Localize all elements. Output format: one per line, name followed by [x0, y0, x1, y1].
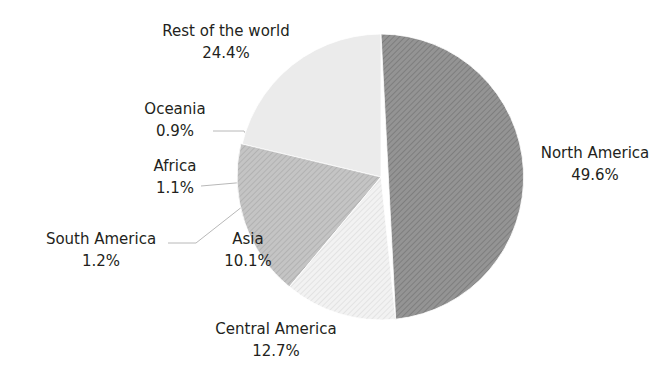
- pie-chart-figure: Rest of the world 24.4% Oceania 0.9% Afr…: [0, 0, 666, 387]
- pie-label-north-america-value: 49.6%: [527, 164, 663, 186]
- pie-label-central-america-value: 12.7%: [188, 340, 364, 362]
- pie-label-south-america: South America 1.2%: [13, 228, 189, 272]
- pie-label-africa-name: Africa: [120, 155, 230, 177]
- pie-label-africa: Africa 1.1%: [120, 155, 230, 199]
- pie-label-south-america-value: 1.2%: [13, 250, 189, 272]
- pie-label-north-america: North America 49.6%: [527, 142, 663, 186]
- pie-label-central-america: Central America 12.7%: [188, 318, 364, 362]
- pie-label-asia-value: 10.1%: [198, 250, 298, 272]
- pie-slice-north-america: [381, 34, 524, 319]
- pie-label-rest-of-the-world-name: Rest of the world: [148, 20, 304, 42]
- pie-label-south-america-name: South America: [13, 228, 189, 250]
- pie-label-asia: Asia 10.1%: [198, 228, 298, 272]
- pie-label-rest-of-the-world: Rest of the world 24.4%: [148, 20, 304, 64]
- pie-label-asia-name: Asia: [198, 228, 298, 250]
- pie-label-rest-of-the-world-value: 24.4%: [148, 42, 304, 64]
- pie-label-oceania-name: Oceania: [120, 98, 230, 120]
- pie-label-north-america-name: North America: [527, 142, 663, 164]
- pie-slices: [237, 34, 524, 320]
- pie-label-central-america-name: Central America: [188, 318, 364, 340]
- pie-label-africa-value: 1.1%: [120, 177, 230, 199]
- pie-label-oceania-value: 0.9%: [120, 120, 230, 142]
- pie-label-oceania: Oceania 0.9%: [120, 98, 230, 142]
